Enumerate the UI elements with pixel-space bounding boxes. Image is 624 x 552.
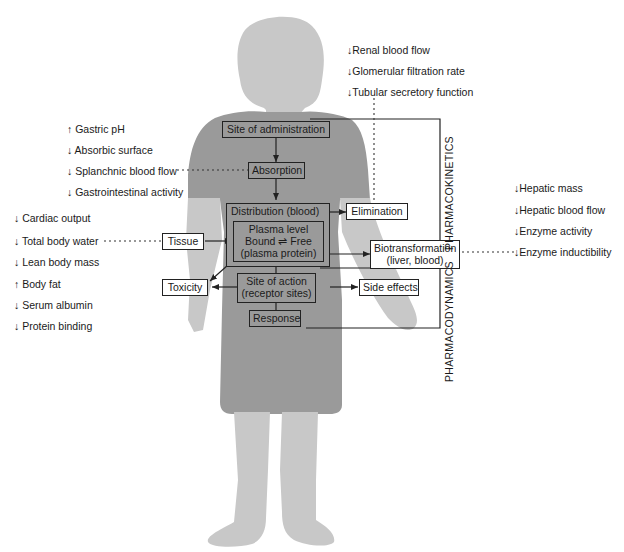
leg-silhouettes [208,412,334,547]
factor-absorbic-surface: ↓ Absorbic surface [67,144,153,156]
plasma-level-line3: (plasma protein) [237,247,320,259]
plasma-level-line2: Bound ⇌ Free [237,235,320,247]
factor-gastric-ph: ↑ Gastric pH [67,123,125,135]
factor-hepatic-blood-flow: ↓Hepatic blood flow [514,204,605,216]
factor-gi-activity: ↓ Gastrointestinal activity [67,186,183,198]
factor-splanchnic-blood-flow: ↓ Splanchnic blood flow [67,165,177,177]
factor-gfr: ↓Glomerular filtration rate [347,65,465,77]
factor-enzyme-activity: ↓Enzyme activity [514,225,592,237]
factor-renal-blood-flow: ↓Renal blood flow [347,44,430,56]
box-absorption: Absorption [248,162,305,179]
box-response: Response [249,310,301,327]
box-plasma-level: Plasma level Bound ⇌ Free (plasma protei… [233,221,324,262]
factor-total-body-water: ↓ Total body water [14,235,98,247]
factor-cardiac-output: ↓ Cardiac output [14,212,90,224]
site-of-action-line2: (receptor sites) [241,287,312,299]
box-site-of-administration: Site of administration [222,121,330,138]
distribution-label: Distribution (blood) [231,205,319,217]
factor-enzyme-inductibility: ↓Enzyme inductibility [514,246,611,258]
box-tissue: Tissue [162,233,204,250]
box-toxicity: Toxicity [162,279,208,296]
factor-body-fat: ↑ Body fat [14,278,61,290]
box-side-effects: Side effects [359,279,419,296]
factor-hepatic-mass: ↓Hepatic mass [514,182,583,194]
label-pharmacodynamics: PHARMACODYNAMICS [443,261,455,382]
factor-protein-binding: ↓ Protein binding [14,320,92,332]
factor-tubular-secretory-function: ↓Tubular secretory function [347,86,473,98]
box-elimination: Elimination [346,203,408,220]
pharmacology-aging-diagram: ↑ Gastric pH ↓ Absorbic surface ↓ Splanc… [0,0,624,552]
box-site-of-action: Site of action (receptor sites) [237,273,316,303]
site-of-action-line1: Site of action [241,275,312,287]
plasma-level-line1: Plasma level [237,223,320,235]
factor-lean-body-mass: ↓ Lean body mass [14,256,99,268]
label-pharmacokinetics: PHARMACOKINETICS [443,136,455,250]
factor-serum-albumin: ↓ Serum albumin [14,299,93,311]
head-silhouette [237,17,323,120]
